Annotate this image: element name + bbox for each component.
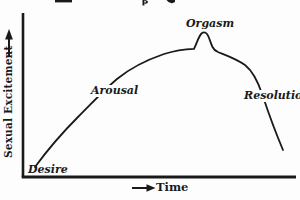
stage-label-desire: Desire [28,164,68,176]
x-axis-label: Time [156,181,188,194]
stage-label-arousal: Arousal [89,85,140,97]
y-axis-label: Sexual Excitement [1,56,15,158]
right-arrow-icon [132,184,156,192]
cropped-title-fragment [55,0,175,6]
stage-label-orgasm: Orgasm [186,18,234,30]
stage-label-resolution: Resolution [242,90,300,102]
sexual-response-cycle-figure: Desire Arousal Orgasm Resolution Sexual … [0,0,300,200]
